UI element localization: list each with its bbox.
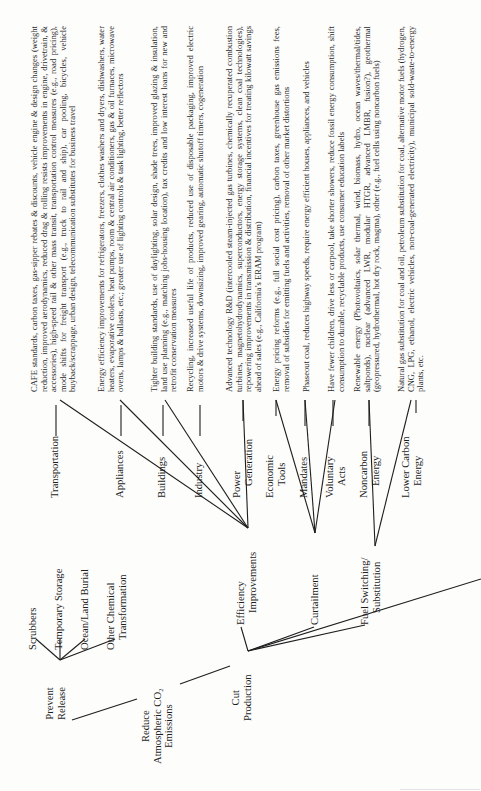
description-voluntary-acts: Have fewer children, drive less or carpo… <box>327 26 346 392</box>
description-industry: Recycling, increased useful life of prod… <box>186 26 205 392</box>
rotated-book-page: Reduce Atmospheric CO₂ Emissions Prevent… <box>0 0 481 791</box>
description-noncarbon-energy: Renewable energy (Photovoltaics, solar t… <box>353 26 382 392</box>
description-economic-tools: Energy pricing reforms (e.g., full socia… <box>272 26 291 392</box>
description-buildings: Tighter building standards, use of dayli… <box>150 26 179 392</box>
description-lower-carbon-energy: Natural gas substitution for coal and oi… <box>397 26 426 392</box>
description-appliances: Energy efficiency improvements for refri… <box>97 26 126 392</box>
page-edge-line <box>400 789 480 790</box>
description-mandates: Phaseout coal, reduces highway speeds, r… <box>302 26 312 392</box>
description-transportation: CAFE standards, carbon taxes, gas-sipper… <box>30 26 78 392</box>
description-power-generation: Advanced technology R&D (intercooled ste… <box>225 26 263 392</box>
